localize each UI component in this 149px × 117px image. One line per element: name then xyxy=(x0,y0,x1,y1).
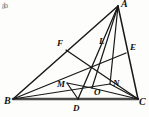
point-label-C: C xyxy=(139,96,146,107)
point-label-A: A xyxy=(120,0,128,9)
point-label-D: D xyxy=(72,103,80,113)
point-label-O: O xyxy=(94,87,101,97)
point-label-B: B xyxy=(3,95,11,106)
triangle-diagram-canvas: ABCDEFLMNO xyxy=(0,0,149,117)
point-label-E: E xyxy=(129,42,136,52)
point-label-L: L xyxy=(98,36,105,46)
point-label-N: N xyxy=(112,78,120,88)
segment-MO xyxy=(67,83,92,88)
geometry-figure: ab ABCDEFLMNO xyxy=(0,0,149,117)
segment-AC xyxy=(118,6,138,99)
point-label-M: M xyxy=(56,79,66,89)
point-label-F: F xyxy=(56,38,63,48)
